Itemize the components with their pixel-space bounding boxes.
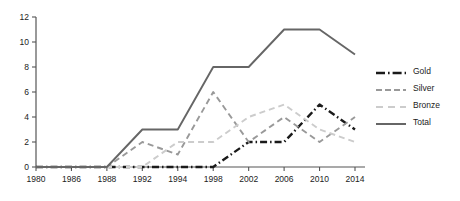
legend-label-silver: Silver: [413, 83, 434, 93]
series-line-gold: [36, 105, 355, 168]
chart-container: 024681012 198019861988199219941998200220…: [0, 0, 460, 201]
y-tick-label: 10: [20, 37, 30, 47]
x-tick-label: 2002: [239, 174, 258, 184]
x-tick-label: 2014: [346, 174, 365, 184]
y-tick-label: 4: [24, 112, 29, 122]
y-tick-label: 12: [20, 12, 30, 22]
legend-swatch-total: [376, 116, 406, 128]
series-line-total: [36, 30, 355, 168]
legend-item-gold: Gold: [376, 62, 460, 79]
x-tick-label: 2006: [275, 174, 294, 184]
series-line-silver: [36, 92, 355, 167]
series-line-bronze: [36, 105, 355, 168]
legend-item-bronze: Bronze: [376, 96, 460, 113]
x-tick-label: 1988: [97, 174, 116, 184]
legend-swatch-silver: [376, 82, 406, 94]
y-tick-label: 2: [24, 137, 29, 147]
y-axis-tick-labels: 024681012: [20, 12, 30, 172]
y-tick-label: 6: [24, 87, 29, 97]
y-tick-label: 8: [24, 62, 29, 72]
x-tick-label: 2010: [310, 174, 329, 184]
legend-swatch-bronze: [376, 99, 406, 111]
legend-label-gold: Gold: [413, 66, 431, 76]
legend-label-total: Total: [413, 117, 431, 127]
y-tick-label: 0: [24, 162, 29, 172]
chart-legend: Gold Silver Bronze Tota: [376, 62, 460, 130]
x-tick-label: 1986: [62, 174, 81, 184]
x-tick-label: 1994: [168, 174, 187, 184]
legend-item-silver: Silver: [376, 79, 460, 96]
x-tick-label: 1992: [133, 174, 152, 184]
legend-label-bronze: Bronze: [413, 100, 440, 110]
legend-swatch-gold: [376, 65, 406, 77]
x-tick-label: 1980: [27, 174, 46, 184]
legend-item-total: Total: [376, 113, 460, 130]
series-lines: [36, 30, 355, 168]
x-axis-tick-labels: 1980198619881992199419982002200620102014: [27, 174, 365, 184]
x-tick-label: 1998: [204, 174, 223, 184]
